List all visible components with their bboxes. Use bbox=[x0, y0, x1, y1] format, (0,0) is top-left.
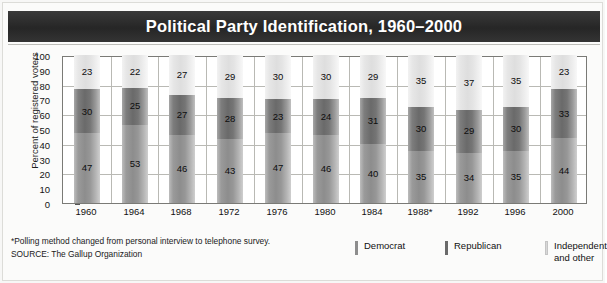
source-line: SOURCE: The Gallup Organization bbox=[11, 248, 341, 261]
x-axis-tick-label: 1996 bbox=[504, 206, 525, 217]
bar-segment-independent[interactable]: 37 bbox=[456, 55, 482, 110]
bar-segment-independent[interactable]: 30 bbox=[313, 55, 339, 99]
x-axis-tick-label: 1972 bbox=[218, 206, 239, 217]
bar-segment-democrat[interactable]: 44 bbox=[551, 138, 577, 203]
bar-segment-democrat[interactable]: 34 bbox=[456, 153, 482, 203]
bar-segment-republican[interactable]: 33 bbox=[551, 89, 577, 138]
y-axis-tick-mark bbox=[75, 204, 80, 205]
bar-segment-independent[interactable]: 30 bbox=[265, 55, 291, 99]
x-axis-ticks: 19601964196819721976198019841988*1992199… bbox=[62, 206, 587, 222]
gridline-vertical bbox=[349, 57, 350, 203]
bar-stack[interactable]: 342937 bbox=[456, 55, 482, 203]
bar-segment-independent[interactable]: 29 bbox=[360, 55, 386, 98]
bar-segment-independent[interactable]: 23 bbox=[551, 55, 577, 89]
bar-segment-value: 27 bbox=[177, 110, 188, 120]
y-axis-tick-label: 80 bbox=[39, 80, 50, 91]
bar-stack[interactable]: 403129 bbox=[360, 55, 386, 203]
bar-segment-republican[interactable]: 31 bbox=[360, 98, 386, 144]
chart-title-band: Political Party Identification, 1960–200… bbox=[8, 11, 600, 42]
bar-segment-value: 27 bbox=[177, 70, 188, 80]
bar-segment-republican[interactable]: 30 bbox=[408, 107, 434, 151]
chart-legend: Democrat Republican Independentand other bbox=[355, 240, 600, 276]
title-divider bbox=[8, 44, 600, 45]
bar-segment-value: 31 bbox=[368, 116, 379, 126]
gridline-vertical bbox=[540, 57, 541, 203]
y-axis-tick-label: 90 bbox=[39, 65, 50, 76]
x-axis-tick-label: 1976 bbox=[266, 206, 287, 217]
gridline-vertical bbox=[254, 57, 255, 203]
bar-segment-value: 35 bbox=[511, 172, 522, 182]
bar-segment-independent[interactable]: 29 bbox=[217, 55, 243, 98]
bar-segment-republican[interactable]: 27 bbox=[169, 95, 195, 135]
bar-segment-democrat[interactable]: 35 bbox=[408, 151, 434, 203]
bar-segment-republican[interactable]: 23 bbox=[265, 99, 291, 133]
bar-segment-independent[interactable]: 22 bbox=[122, 55, 148, 88]
bar-segment-democrat[interactable]: 46 bbox=[313, 135, 339, 203]
bar-stack[interactable]: 443323 bbox=[551, 55, 577, 203]
bar-stack[interactable]: 462430 bbox=[313, 55, 339, 203]
bar-segment-value: 30 bbox=[82, 107, 93, 117]
legend-swatch-republican-icon bbox=[445, 241, 448, 255]
bar-segment-value: 47 bbox=[82, 163, 93, 173]
bar-stack[interactable]: 432829 bbox=[217, 55, 243, 203]
page-title: Political Party Identification, 1960–200… bbox=[146, 17, 462, 36]
bar-segment-value: 53 bbox=[130, 159, 141, 169]
bar-segment-democrat[interactable]: 47 bbox=[74, 133, 100, 203]
y-axis-tick-label: 100 bbox=[34, 51, 50, 62]
bar-segment-independent[interactable]: 23 bbox=[74, 55, 100, 89]
bar-segment-independent[interactable]: 35 bbox=[408, 55, 434, 107]
bar-segment-value: 30 bbox=[273, 72, 284, 82]
legend-label-independent-line1: Independent bbox=[554, 240, 607, 251]
bar-segment-republican[interactable]: 29 bbox=[456, 110, 482, 153]
bar-segment-value: 28 bbox=[225, 114, 236, 124]
bar-segment-democrat[interactable]: 47 bbox=[265, 133, 291, 203]
bar-segment-value: 37 bbox=[464, 78, 475, 88]
bar-segment-value: 24 bbox=[321, 112, 332, 122]
gridline-vertical bbox=[302, 57, 303, 203]
bar-stack[interactable]: 532522 bbox=[122, 55, 148, 203]
x-axis-tick-label: 1980 bbox=[314, 206, 335, 217]
gridline-vertical bbox=[111, 57, 112, 203]
bar-segment-republican[interactable]: 25 bbox=[122, 88, 148, 125]
bar-segment-independent[interactable]: 35 bbox=[503, 55, 529, 107]
chart-notes: *Polling method changed from personal in… bbox=[11, 235, 341, 261]
bar-stack[interactable]: 473023 bbox=[74, 55, 100, 203]
legend-label-independent: Independentand other bbox=[554, 240, 607, 264]
bar-segment-democrat[interactable]: 40 bbox=[360, 144, 386, 203]
y-axis-tick-label: 30 bbox=[39, 154, 50, 165]
legend-item-democrat: Democrat bbox=[355, 240, 405, 255]
bar-segment-value: 23 bbox=[559, 67, 570, 77]
bar-segment-independent[interactable]: 27 bbox=[169, 55, 195, 95]
chart-paper: Political Party Identification, 1960–200… bbox=[2, 2, 603, 281]
bar-segment-value: 35 bbox=[416, 172, 427, 182]
bar-segment-republican[interactable]: 24 bbox=[313, 99, 339, 135]
bar-segment-republican[interactable]: 28 bbox=[217, 98, 243, 139]
footnote-polling-method: *Polling method changed from personal in… bbox=[11, 235, 341, 248]
bar-stack[interactable]: 472330 bbox=[265, 55, 291, 203]
legend-label-republican: Republican bbox=[454, 240, 502, 252]
bar-segment-democrat[interactable]: 53 bbox=[122, 125, 148, 203]
gridline-vertical bbox=[158, 57, 159, 203]
bar-segment-republican[interactable]: 30 bbox=[503, 107, 529, 151]
bar-segment-value: 47 bbox=[273, 163, 284, 173]
plot-area: 4730235325224627274328294723304624304031… bbox=[62, 56, 587, 204]
bar-segment-value: 34 bbox=[464, 173, 475, 183]
bar-segment-democrat[interactable]: 46 bbox=[169, 135, 195, 203]
bar-segment-value: 29 bbox=[225, 72, 236, 82]
bar-segment-democrat[interactable]: 43 bbox=[217, 139, 243, 203]
bar-stack[interactable]: 353035 bbox=[503, 55, 529, 203]
bar-stack[interactable]: 462727 bbox=[169, 55, 195, 203]
bar-segment-value: 23 bbox=[273, 112, 284, 122]
x-axis-tick-label: 1960 bbox=[75, 206, 96, 217]
legend-swatch-independent-icon bbox=[545, 241, 548, 255]
bar-stack[interactable]: 353035 bbox=[408, 55, 434, 203]
bar-segment-democrat[interactable]: 35 bbox=[503, 151, 529, 203]
legend-label-independent-line2: and other bbox=[554, 252, 594, 263]
bar-segment-value: 25 bbox=[130, 101, 141, 111]
y-axis-tick-label: 40 bbox=[39, 139, 50, 150]
bar-segment-value: 30 bbox=[511, 124, 522, 134]
bar-segment-republican[interactable]: 30 bbox=[74, 89, 100, 133]
bar-segment-value: 22 bbox=[130, 67, 141, 77]
legend-swatch-democrat-icon bbox=[355, 241, 358, 255]
